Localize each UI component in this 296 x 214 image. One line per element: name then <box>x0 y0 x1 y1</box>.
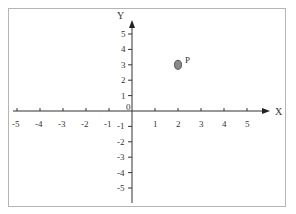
x-tick-label: 2 <box>176 119 181 129</box>
point-p: P <box>175 55 191 70</box>
point-marker <box>175 60 182 69</box>
coordinate-plane: -5-4-3-2-112345 54321-1-2-3-4-5 X Y 0 P <box>0 0 296 214</box>
origin-label: 0 <box>126 102 131 112</box>
y-tick-label: 5 <box>121 29 126 39</box>
y-axis-label: Y <box>117 10 124 21</box>
x-tick-label: 1 <box>153 119 158 129</box>
y-tick-label: 4 <box>121 44 126 54</box>
x-axis-label: X <box>275 106 283 117</box>
x-tick-label: 4 <box>222 119 227 129</box>
y-tick-label: 2 <box>121 75 126 85</box>
y-tick-label: 1 <box>121 91 126 101</box>
point-label: P <box>185 55 190 65</box>
x-tick-label: -2 <box>81 119 89 129</box>
y-tick-label: -1 <box>117 121 125 131</box>
x-tick-label: -1 <box>104 119 112 129</box>
x-tick-label: -5 <box>12 119 20 129</box>
x-tick-label: 3 <box>199 119 204 129</box>
y-tick-label: -3 <box>117 152 125 162</box>
y-tick-label: 3 <box>121 60 126 70</box>
x-tick-label: -3 <box>58 119 66 129</box>
y-tick-label: -4 <box>117 168 125 178</box>
y-tick-label: -2 <box>117 137 125 147</box>
y-axis-arrow-icon <box>129 20 135 28</box>
x-tick-label: 5 <box>245 119 250 129</box>
x-tick-label: -4 <box>35 119 43 129</box>
x-axis-arrow-icon <box>262 108 270 114</box>
y-tick-label: -5 <box>117 183 125 193</box>
